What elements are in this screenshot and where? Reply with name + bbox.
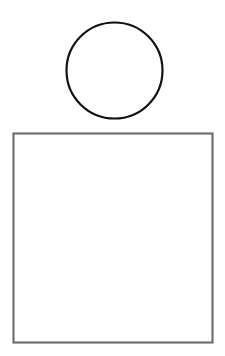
square-shape [14,134,213,343]
circle-shape [67,23,163,119]
diagram-canvas [0,0,225,356]
